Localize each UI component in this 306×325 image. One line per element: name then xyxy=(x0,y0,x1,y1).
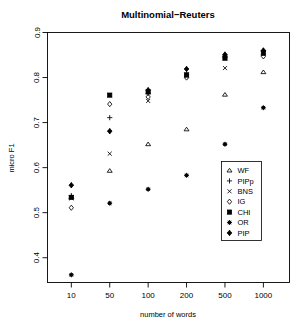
point-pip-50 xyxy=(107,128,112,133)
legend-label-pipp: PIPp xyxy=(238,177,254,186)
x-tick-label: 200 xyxy=(180,291,194,300)
chart-container: Multinomial−Reuters micro F1 number of w… xyxy=(0,0,306,325)
x-axis: 10501002005001000 xyxy=(67,283,273,301)
y-axis-label: micro F1 xyxy=(7,143,16,172)
x-tick-label: 1000 xyxy=(254,291,272,300)
y-tick-label: 0.6 xyxy=(33,162,42,174)
point-chi-50 xyxy=(108,93,112,97)
scatter-plot: Multinomial−Reuters micro F1 number of w… xyxy=(0,0,306,325)
y-tick-label: 0.8 xyxy=(33,71,42,83)
point-pip-10 xyxy=(69,182,74,187)
point-or-200 xyxy=(184,173,189,178)
legend-marker-or xyxy=(227,220,232,225)
point-or-1000 xyxy=(261,105,266,110)
point-bns-500 xyxy=(223,66,227,70)
point-or-500 xyxy=(222,142,227,147)
point-bns-50 xyxy=(108,152,112,156)
point-ig-10 xyxy=(69,205,73,210)
point-or-100 xyxy=(146,187,151,192)
point-chi-10 xyxy=(69,195,73,199)
chart-legend: WFPIPpBNSIGCHIORPIP xyxy=(222,162,262,241)
legend-label-ig: IG xyxy=(238,197,246,206)
x-tick-label: 50 xyxy=(105,291,114,300)
point-pipp-50 xyxy=(107,115,112,120)
legend-label-wf: WF xyxy=(238,166,250,175)
chart-title: Multinomial−Reuters xyxy=(121,9,215,20)
point-wf-50 xyxy=(107,169,112,173)
point-wf-200 xyxy=(184,127,189,131)
point-pip-200 xyxy=(184,66,189,71)
y-tick-label: 0.9 xyxy=(33,26,42,38)
legend-label-bns: BNS xyxy=(238,187,253,196)
legend-marker-chi xyxy=(227,210,231,214)
plot-frame xyxy=(48,33,290,283)
x-axis-label: number of words xyxy=(140,310,196,319)
point-ig-50 xyxy=(108,102,112,107)
legend-label-pip: PIP xyxy=(238,229,250,238)
legend-label-chi: CHI xyxy=(238,208,251,217)
y-tick-label: 0.7 xyxy=(33,116,42,128)
point-or-50 xyxy=(107,201,112,206)
x-tick-label: 500 xyxy=(218,291,232,300)
point-wf-500 xyxy=(222,93,227,97)
point-or-10 xyxy=(69,272,74,277)
y-axis: 0.40.50.60.70.80.9 xyxy=(33,26,48,263)
point-wf-1000 xyxy=(261,70,266,74)
point-chi-200 xyxy=(184,73,188,77)
x-tick-label: 10 xyxy=(67,291,76,300)
point-wf-100 xyxy=(146,142,151,146)
y-tick-label: 0.5 xyxy=(33,207,42,219)
y-tick-label: 0.4 xyxy=(33,252,42,264)
x-tick-label: 100 xyxy=(141,291,155,300)
legend-label-or: OR xyxy=(238,218,250,227)
